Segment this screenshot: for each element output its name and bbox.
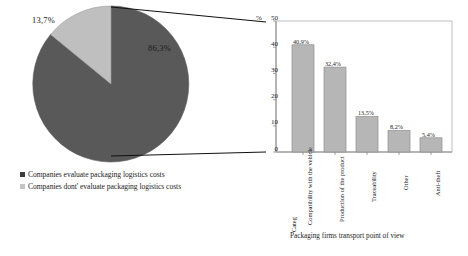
x-category-label: Compatibility with the vehicle (306, 147, 313, 225)
x-axis-title: Packaging firms transport point of view (290, 232, 404, 240)
y-tick-label: 0 (262, 145, 278, 153)
y-axis-unit-label: % (256, 14, 262, 22)
x-axis-title-tick: Categ (290, 217, 297, 232)
bar-rect (292, 45, 314, 152)
bar-value-label: 40,9% (293, 38, 309, 45)
x-category-label: Traceability (370, 171, 377, 202)
x-category-label: Production of the product (338, 157, 345, 223)
pie-label-not-evaluate: 13,7% (32, 15, 55, 25)
legend-swatch-icon (20, 172, 25, 177)
legend-item-label: Companies evaluate packaging logistics c… (28, 170, 165, 179)
pie-label-evaluate: 86,3% (148, 43, 171, 53)
legend-item-label: Companies dont' evaluate packaging logis… (28, 182, 181, 191)
pie-legend: Companies evaluate packaging logistics c… (20, 168, 181, 192)
x-category-label: Other (402, 175, 409, 190)
bar-value-label: 32,4% (325, 60, 341, 67)
legend-swatch-icon (20, 184, 25, 189)
y-tick-label: 30 (262, 66, 278, 74)
bar-value-label: 5,4% (422, 131, 435, 138)
bar-rect (388, 131, 410, 153)
y-tick-label: 40 (262, 40, 278, 48)
y-tick-label: 50 (262, 14, 278, 22)
pie-chart-panel: 13,7% 86,3% Companies evaluate packaging… (0, 0, 232, 256)
legend-item: Companies evaluate packaging logistics c… (20, 168, 181, 180)
bar-value-label: 8,2% (390, 123, 403, 130)
y-tick-label: 20 (262, 92, 278, 100)
bar-rect (324, 67, 346, 152)
y-tick-label: 10 (262, 118, 278, 126)
x-category-label: Anti-theft (434, 171, 441, 196)
bar-rect (420, 138, 442, 152)
bar-rect (356, 117, 378, 152)
bar-chart-graphic (232, 0, 468, 256)
bar-chart-panel: % 50 40 30 20 10 0 40,9% 32,4% 13,5% 8,2… (232, 0, 468, 256)
pie-chart-graphic (14, 2, 214, 167)
legend-item: Companies dont' evaluate packaging logis… (20, 180, 181, 192)
figure-root: 13,7% 86,3% Companies evaluate packaging… (0, 0, 468, 256)
bar-value-label: 13,5% (358, 109, 374, 116)
